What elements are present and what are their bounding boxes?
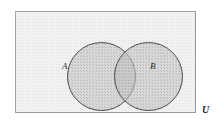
set-a-label: A [62,62,68,71]
set-b-label: B [150,62,156,71]
universal-set-label: U [202,105,209,115]
venn-diagram-figure: A B U [0,0,220,129]
universal-set-rectangle [15,11,196,113]
set-b-circle [114,42,183,111]
